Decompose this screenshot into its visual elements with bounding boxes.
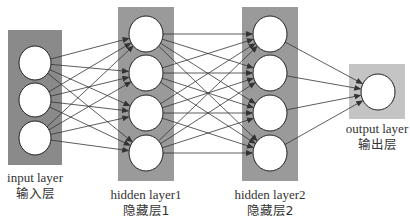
neural-network-diagram: input layer 输入层 hidden layer1 隐藏层1 hidde…: [0, 0, 410, 222]
input-node: [19, 83, 51, 117]
output-layer-label: output layer: [346, 121, 409, 136]
output-layer-label-zh: 输出层: [358, 137, 397, 152]
hidden1-node: [129, 135, 163, 171]
hidden1-node: [129, 16, 163, 52]
hidden2-node: [253, 16, 287, 52]
hidden-layer2-label-zh: 隐藏层2: [247, 203, 294, 218]
connection-edge: [160, 44, 255, 104]
input-layer-label: input layer: [7, 170, 64, 185]
hidden1-node: [129, 95, 163, 131]
hidden2-node: [253, 55, 287, 91]
hidden2-node: [253, 95, 287, 131]
hidden-layer1-label-zh: 隐藏层1: [123, 203, 170, 218]
hidden-layer2-label: hidden layer2: [234, 187, 305, 202]
hidden1-node: [129, 55, 163, 91]
input-layer-label-zh: 输入层: [16, 186, 55, 201]
connection-edge: [51, 39, 129, 60]
output-node: [361, 74, 395, 110]
hidden-layer1-label: hidden layer1: [110, 187, 181, 202]
hidden2-node: [253, 135, 287, 171]
input-node: [19, 121, 51, 155]
connection-edge: [51, 117, 129, 135]
input-node: [19, 46, 51, 80]
connection-edge: [51, 140, 128, 151]
